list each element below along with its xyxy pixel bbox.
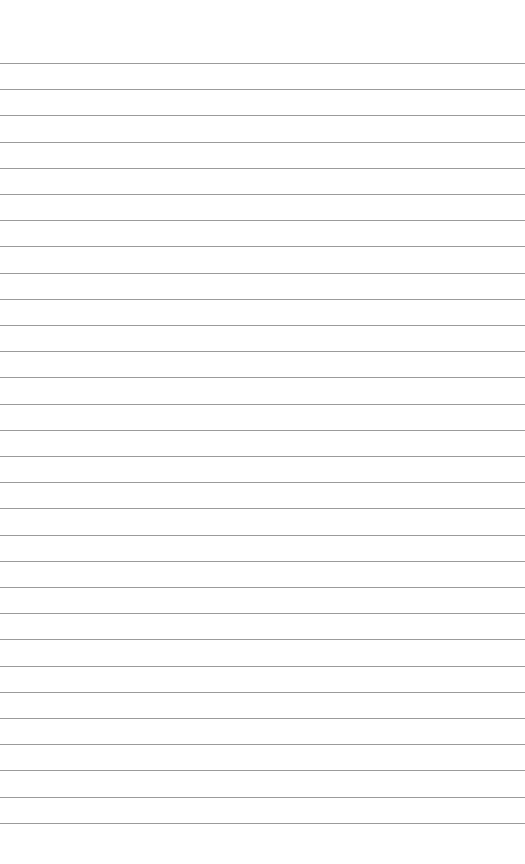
ruled-line — [0, 666, 525, 667]
ruled-line — [0, 377, 525, 378]
ruled-line — [0, 639, 525, 640]
ruled-line — [0, 456, 525, 457]
ruled-line — [0, 430, 525, 431]
ruled-line — [0, 587, 525, 588]
ruled-line — [0, 404, 525, 405]
ruled-line — [0, 482, 525, 483]
ruled-line — [0, 194, 525, 195]
ruled-line — [0, 142, 525, 143]
ruled-line — [0, 508, 525, 509]
ruled-line — [0, 692, 525, 693]
ruled-line — [0, 770, 525, 771]
ruled-line — [0, 115, 525, 116]
ruled-line — [0, 220, 525, 221]
ruled-line — [0, 273, 525, 274]
ruled-line — [0, 351, 525, 352]
ruled-line — [0, 63, 525, 64]
ruled-line — [0, 561, 525, 562]
ruled-line — [0, 535, 525, 536]
ruled-line — [0, 299, 525, 300]
ruled-line — [0, 718, 525, 719]
ruled-line — [0, 246, 525, 247]
ruled-line — [0, 744, 525, 745]
lined-paper-page — [0, 0, 525, 864]
ruled-line — [0, 613, 525, 614]
ruled-line — [0, 168, 525, 169]
ruled-line — [0, 823, 525, 824]
ruled-line — [0, 797, 525, 798]
ruled-line — [0, 325, 525, 326]
ruled-line — [0, 89, 525, 90]
